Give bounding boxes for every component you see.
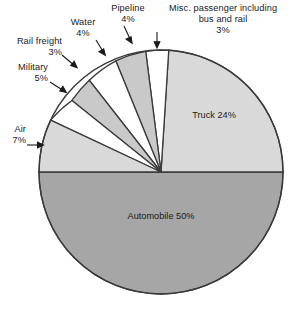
pie-slice-automobile[interactable] [39,172,283,294]
slice-label-water: Water 4% [62,17,104,39]
slice-label-water-name: Water [71,17,96,27]
slice-label-water-percent: 4% [62,28,104,39]
slice-label-air: Air 7% [2,124,26,146]
pie-chart: Air 7% Military 5% Rail freight 3% Water… [0,0,297,309]
slice-label-misc-passenger-line1: Misc. passenger including [169,3,277,13]
slice-label-military-name: Military [18,62,48,72]
slice-label-military-percent: 5% [0,73,48,84]
slice-label-air-name: Air [14,124,26,134]
slice-label-military: Military 5% [0,62,48,84]
slice-label-truck-percent: 24% [217,110,235,120]
leader-arrow-rail-freight [62,55,77,68]
slice-label-automobile: Automobile 50% [106,211,216,222]
slice-label-air-percent: 7% [2,135,26,146]
slice-label-truck-name: Truck [192,110,215,120]
slice-label-pipeline: Pipeline 4% [107,3,149,25]
slice-label-misc-passenger-line2: bus and rail [150,14,296,25]
leader-arrow-pipeline [124,26,132,43]
slice-label-rail-freight-name: Rail freight [17,36,62,46]
slice-label-rail-freight: Rail freight 3% [0,36,62,58]
slice-label-truck: Truck 24% [183,110,245,121]
slice-label-pipeline-percent: 4% [107,14,149,25]
leader-arrow-water [96,40,105,55]
slice-label-automobile-name: Automobile [128,211,174,221]
leader-arrow-military [50,82,66,93]
slice-label-misc-passenger: Misc. passenger including bus and rail 3… [150,3,296,37]
slice-label-rail-freight-percent: 3% [0,47,62,58]
slice-label-misc-passenger-percent: 3% [150,25,296,36]
slice-label-pipeline-name: Pipeline [111,3,145,13]
slice-label-automobile-percent: 50% [176,211,194,221]
